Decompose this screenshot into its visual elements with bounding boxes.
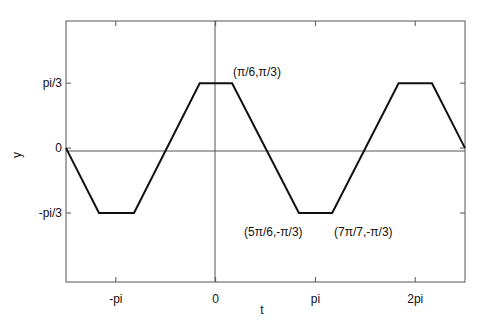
annotation-peak: (π/6,π/3)	[233, 65, 281, 79]
x-tick-label: pi	[311, 292, 320, 306]
annotation-trough-end: (7π/7,-π/3)	[334, 225, 393, 239]
x-axis-label: t	[260, 303, 264, 317]
y-tick-label: pi/3	[43, 76, 63, 90]
x-tick-label: 0	[212, 292, 219, 306]
x-tick-label: -pi	[109, 292, 122, 306]
y-axis-label: y	[10, 152, 24, 158]
x-tick-label: 2pi	[407, 292, 423, 306]
tick-labels: -pi0pi2pipi/30-pi/3	[39, 76, 424, 306]
trapezoid-wave-line	[66, 83, 465, 213]
annotation-trough-start: (5π/6,-π/3)	[244, 225, 303, 239]
y-tick-label: 0	[55, 141, 62, 155]
y-tick-label: -pi/3	[39, 206, 63, 220]
chart-canvas: -pi0pi2pipi/30-pi/3 t y (π/6,π/3) (5π/6,…	[0, 0, 491, 332]
